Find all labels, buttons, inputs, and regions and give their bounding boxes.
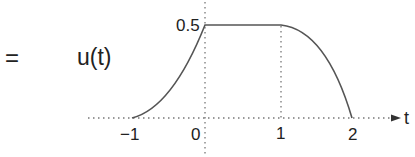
signal-curve (132, 25, 352, 118)
x-tick-1: 1 (276, 124, 285, 143)
x-axis-label: t (404, 108, 409, 128)
y-tick-label: 0.5 (176, 16, 200, 35)
signal-plot: 0.5 −1 0 1 2 t (0, 0, 415, 157)
x-tick-2: 2 (348, 125, 357, 144)
x-tick-0: 0 (191, 125, 200, 144)
x-tick-minus1: −1 (120, 125, 139, 144)
x-axis-arrow-icon (391, 115, 401, 122)
